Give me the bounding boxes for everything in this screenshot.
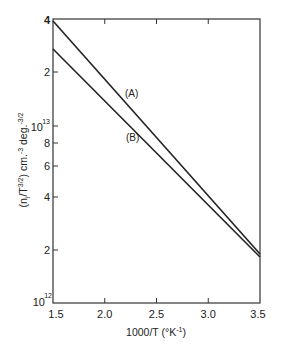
y-tick-1e12-exp: 12 — [44, 292, 52, 299]
y-tick-labels: 4 2 10 13 8 6 4 2 10 12 — [31, 14, 52, 308]
y-axis-title: (ni/T3/2) cm.-3 deg.-3/2 — [17, 112, 31, 207]
y-tick-8e12: 8 — [44, 137, 50, 149]
chart-canvas: (A) (B) 4 2 10 13 8 6 4 2 10 12 1.5 2.0 … — [0, 0, 281, 355]
series-b-line — [53, 49, 260, 257]
y-tick-4e12: 4 — [44, 191, 50, 203]
annotation-b: (B) — [126, 132, 139, 143]
x-tick-3-0: 3.0 — [201, 308, 216, 320]
y-tick-2e13: 2 — [44, 66, 50, 78]
annotation-a: (A) — [125, 88, 138, 99]
x-tick-1-5: 1.5 — [48, 308, 63, 320]
x-axis-title: 1000/T (°K-1) — [126, 326, 186, 338]
x-tick-3-5: 3.5 — [250, 308, 265, 320]
y-ticks — [53, 72, 58, 250]
y-tick-2e12: 2 — [44, 244, 50, 256]
y-tick-1e13: 10 — [31, 121, 43, 133]
x-tick-2-0: 2.0 — [97, 308, 112, 320]
x-ticks — [105, 19, 209, 303]
y-tick-4e13: 4 — [44, 14, 51, 26]
y-tick-6e12: 6 — [44, 160, 50, 172]
x-tick-2-5: 2.5 — [149, 308, 164, 320]
plot-frame — [53, 19, 260, 303]
y-tick-1e12: 10 — [33, 296, 45, 308]
y-tick-1e13-exp: 13 — [42, 118, 50, 125]
x-tick-labels: 1.5 2.0 2.5 3.0 3.5 — [48, 308, 265, 320]
series-a-line — [53, 21, 260, 254]
